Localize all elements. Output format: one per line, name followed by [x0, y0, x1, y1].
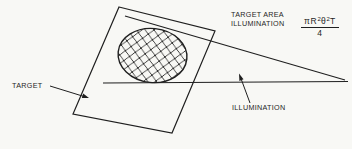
- formula-denominator: 4: [301, 28, 339, 38]
- target-pointer-line: [50, 86, 84, 97]
- target-area-illumination-line1: TARGET AREA: [231, 10, 284, 19]
- illuminated-spot: [115, 25, 189, 86]
- illuminated-spot-ellipse: [115, 25, 189, 86]
- formula-r-exponent: 2: [317, 16, 321, 22]
- target-pointer-arrow: [50, 86, 89, 98]
- formula-theta-exponent: 2: [326, 16, 330, 22]
- illumination-label: ILLUMINATION: [232, 103, 285, 112]
- formula-pi-symbol: π: [304, 16, 311, 26]
- target-area-illumination-label: TARGET AREA ILLUMINATION: [231, 10, 284, 28]
- formula-numerator: πR2θ2T: [301, 12, 339, 28]
- formula-t-term: T: [330, 16, 336, 26]
- target-area-illumination-line2: ILLUMINATION: [231, 19, 284, 28]
- beam-lower-edge-line: [103, 82, 348, 84]
- illumination-pointer-arrow: [239, 74, 250, 104]
- diagram-page: TARGET AREA ILLUMINATION πR2θ2T 4 TARGET…: [0, 0, 352, 149]
- illumination-arrowhead-icon: [239, 74, 244, 81]
- target-label: TARGET: [12, 81, 42, 90]
- target-area-illumination-formula: πR2θ2T 4: [301, 12, 339, 38]
- target-arrowhead-icon: [82, 94, 89, 98]
- beam-illumination-diagram: [0, 0, 352, 149]
- illumination-pointer-line: [242, 80, 251, 103]
